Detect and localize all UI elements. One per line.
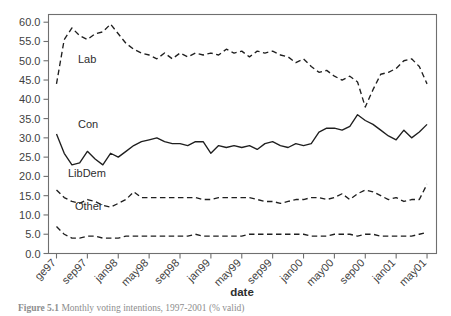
x-tick-label: sep97 <box>59 256 89 286</box>
y-tick-label: 25.0 <box>19 151 40 163</box>
y-tick-label: 20.0 <box>19 170 40 182</box>
y-tick-label: 10.0 <box>19 209 40 221</box>
x-tick-label: jan98 <box>91 256 119 284</box>
x-tick-label: jan00 <box>277 256 305 284</box>
x-tick-label: may01 <box>397 256 429 288</box>
caption-prefix: Figure 5.1 <box>18 303 59 313</box>
x-tick-label: sep99 <box>244 256 274 286</box>
y-tick-label: 0.0 <box>25 248 40 260</box>
x-tick-label: jan99 <box>184 256 212 284</box>
y-tick-label: 45.0 <box>19 74 40 86</box>
figure-caption: Figure 5.1 Monthly voting intentions, 19… <box>18 303 438 313</box>
line-chart: 0.05.010.015.020.025.030.035.040.045.050… <box>0 0 451 316</box>
figure-container: 0.05.010.015.020.025.030.035.040.045.050… <box>0 0 451 316</box>
y-tick-label: 30.0 <box>19 132 40 144</box>
y-tick-label: 15.0 <box>19 190 40 202</box>
series-line-libdem <box>57 184 428 207</box>
x-tick-label: sep00 <box>337 256 367 286</box>
x-axis-ticks: ge97sep97jan98may98sep98jan99may99sep99j… <box>32 254 428 289</box>
x-tick-label: may00 <box>304 256 336 288</box>
y-tick-label: 5.0 <box>25 228 40 240</box>
series-label-lab: Lab <box>78 53 96 65</box>
x-tick-label: may98 <box>119 256 151 288</box>
y-tick-label: 40.0 <box>19 93 40 105</box>
y-tick-label: 60.0 <box>19 16 40 28</box>
y-tick-label: 55.0 <box>19 35 40 47</box>
x-axis-title: date <box>230 286 254 298</box>
y-tick-label: 35.0 <box>19 113 40 125</box>
y-axis-ticks: 0.05.010.015.020.025.030.035.040.045.050… <box>19 16 48 259</box>
plot-frame <box>49 15 437 254</box>
x-tick-label: ge97 <box>32 256 58 282</box>
series-label-libdem: LibDem <box>68 167 106 179</box>
series-lines <box>57 24 428 238</box>
series-line-lab <box>57 24 428 107</box>
series-label-con: Con <box>78 118 98 130</box>
y-tick-label: 50.0 <box>19 55 40 67</box>
x-tick-label: sep98 <box>152 256 182 286</box>
x-tick-label: may99 <box>211 256 243 288</box>
caption-text: Monthly voting intentions, 1997-2001 (% … <box>61 303 244 313</box>
series-label-other: Other <box>75 200 103 212</box>
series-line-other <box>57 227 428 239</box>
x-tick-label: jan01 <box>369 256 397 284</box>
series-line-con <box>57 115 428 165</box>
